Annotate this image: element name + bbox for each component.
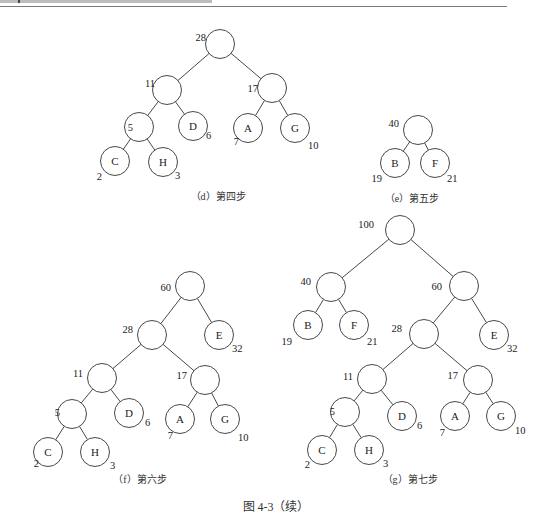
tree-panel-e: 40B19F21（e）第五步 <box>372 116 458 205</box>
leaf-node-d: D6 <box>179 112 212 142</box>
internal-node: 28 <box>392 320 439 349</box>
leaf-node-c: C2 <box>97 147 130 183</box>
node-weight: 19 <box>372 173 383 184</box>
node-label: B <box>304 319 311 331</box>
tree-edge <box>161 297 181 323</box>
node-weight: 7 <box>440 427 445 438</box>
node-circle <box>176 272 205 301</box>
node-label: G <box>497 410 505 422</box>
node-weight: 2 <box>305 459 310 470</box>
tree-panel-d: 2811175D6A7G10C2H3（d）第四步 <box>97 30 319 203</box>
node-weight: 11 <box>73 368 83 379</box>
leaf-node-c: C2 <box>34 438 63 470</box>
tree-edge <box>330 424 338 437</box>
tree-edge <box>433 297 454 323</box>
node-weight: 21 <box>447 173 458 184</box>
leaf-node-b: B19 <box>282 311 323 348</box>
leaf-node-f: F21 <box>340 311 378 348</box>
node-label: B <box>391 157 398 169</box>
leaf-node-g: G10 <box>487 402 526 437</box>
node-label: F <box>432 157 438 169</box>
node-weight: 40 <box>301 276 312 287</box>
node-circle <box>386 216 415 245</box>
node-weight: 28 <box>123 324 134 335</box>
node-weight: 60 <box>432 281 443 292</box>
node-circle <box>206 30 235 59</box>
node-circle <box>88 364 117 393</box>
node-label: A <box>451 410 459 422</box>
huffman-tree-figure: 2811175D6A7G10C2H3（d）第四步40B19F21（e）第五步60… <box>0 0 552 520</box>
internal-node: 11 <box>343 365 387 394</box>
node-label: A <box>244 122 252 134</box>
internal-node: 28 <box>123 321 167 350</box>
node-circle <box>58 400 87 429</box>
node-label: A <box>176 413 184 425</box>
node-weight: 40 <box>389 118 400 129</box>
tree-edge <box>111 389 120 401</box>
tree-edge <box>113 344 141 368</box>
internal-node: 5 <box>55 400 87 429</box>
node-circle <box>464 366 493 395</box>
tree-edge <box>175 102 184 114</box>
node-weight: 6 <box>145 417 150 428</box>
node-label: F <box>351 319 357 331</box>
internal-node: 28 <box>196 30 235 59</box>
internal-node: 100 <box>358 216 414 245</box>
tree-edge <box>178 54 209 81</box>
figure-caption: 图 4-3（续） <box>243 500 310 514</box>
leaf-node-d: D6 <box>115 399 151 429</box>
node-circle <box>404 116 433 145</box>
node-label: D <box>189 120 197 132</box>
internal-node: 11 <box>145 76 182 105</box>
panel-caption-d: （d）第四步 <box>191 190 246 202</box>
node-weight: 2 <box>97 171 102 182</box>
tree-edge <box>403 142 409 151</box>
tree-edge <box>255 100 264 115</box>
tree-panel-f: 6028E3211175D6A7G10C2H3（f）第六步 <box>34 272 249 486</box>
node-weight: 3 <box>175 170 180 181</box>
leaf-node-c: C2 <box>305 436 337 471</box>
leaf-node-e: E32 <box>480 321 518 355</box>
leaf-node-g: G10 <box>211 405 249 444</box>
tree-panel-g: 1004060B19F2128E3211175D6A7G10C2H3（g）第七步 <box>282 216 526 486</box>
node-weight: 21 <box>367 336 378 347</box>
leaf-node-d: D6 <box>388 402 423 432</box>
node-label: D <box>398 410 406 422</box>
tree-edge <box>81 389 92 403</box>
tree-edge <box>147 139 155 150</box>
node-label: D <box>125 407 133 419</box>
node-label: E <box>491 329 498 341</box>
node-weight: 60 <box>161 282 172 293</box>
tree-edge <box>383 343 413 369</box>
tree-edge <box>80 426 88 439</box>
internal-node: 40 <box>301 273 346 302</box>
tree-edge <box>486 392 493 404</box>
node-weight: 10 <box>238 432 249 443</box>
internal-node: 11 <box>73 364 117 393</box>
tree-edge <box>123 139 130 149</box>
node-weight: 3 <box>383 458 388 469</box>
panel-caption-e: （e）第五步 <box>385 192 439 204</box>
leaf-node-h: H3 <box>355 436 389 470</box>
internal-node: 17 <box>448 366 493 395</box>
node-circle <box>138 321 167 350</box>
tree-edge <box>212 393 219 406</box>
leaf-node-h: H3 <box>149 148 181 182</box>
tree-edge <box>354 390 363 401</box>
tree-edge <box>472 298 487 322</box>
tree-edge <box>463 392 470 404</box>
node-label: H <box>91 446 99 458</box>
leaf-node-a: A7 <box>440 402 470 439</box>
node-label: G <box>221 413 229 425</box>
internal-node: 5 <box>125 113 154 142</box>
leaf-node-e: E32 <box>205 321 243 355</box>
node-weight: 28 <box>196 32 207 43</box>
node-label: C <box>318 444 325 456</box>
node-circle <box>191 366 220 395</box>
tree-edge <box>411 240 453 277</box>
node-weight: 19 <box>282 336 293 347</box>
node-weight: 10 <box>308 140 319 151</box>
tree-edge <box>197 298 211 322</box>
leaf-node-f: F21 <box>421 149 458 185</box>
panel-caption-f: （f）第六步 <box>113 473 166 485</box>
